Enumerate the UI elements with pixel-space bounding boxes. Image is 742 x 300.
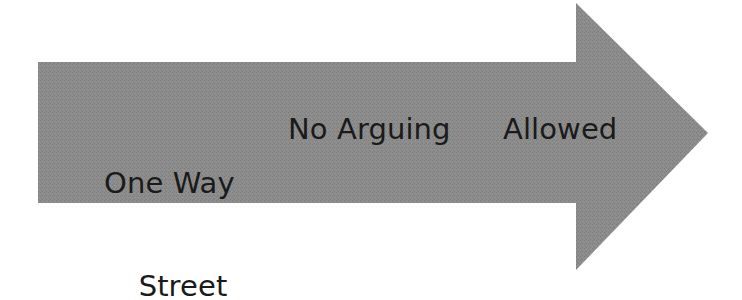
label-line-street: Street <box>96 269 256 300</box>
label-one-way-street: One Way Street <box>96 98 256 300</box>
label-line-one-way: One Way <box>96 166 256 200</box>
label-no-arguing: No Arguing <box>288 112 451 146</box>
label-allowed: Allowed <box>503 112 617 146</box>
